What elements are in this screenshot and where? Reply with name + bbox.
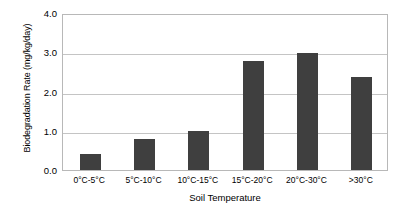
y-axis-tick-label: 3.0 [26, 48, 57, 58]
y-axis-tick-label: 2.0 [26, 88, 57, 98]
x-axis-tick-label: 0°C-5°C [62, 174, 116, 186]
bar [134, 139, 155, 170]
bar [188, 131, 209, 170]
bar-chart: Biodegradation Rate (mg/kg/day) 0.01.02.… [0, 0, 408, 218]
bars-layer [63, 15, 387, 170]
bar [243, 61, 264, 170]
y-axis-tick-label: 4.0 [26, 9, 57, 19]
bar [80, 154, 101, 170]
plot-area [62, 14, 388, 171]
x-axis-tick-labels: 0°C-5°C5°C-10°C10°C-15°C15°C-20°C20°C-30… [62, 174, 388, 188]
x-axis-tick-label: 5°C-10°C [117, 174, 171, 186]
x-axis-tick-label: >30°C [334, 174, 388, 186]
y-axis-tick-label: 1.0 [26, 127, 57, 137]
y-axis-tick-label: 0.0 [26, 166, 57, 176]
bar [351, 77, 372, 170]
x-axis-tick-label: 15°C-20°C [225, 174, 279, 186]
x-axis-tick-label: 10°C-15°C [171, 174, 225, 186]
bar [297, 53, 318, 170]
y-axis-tick-labels: 0.01.02.03.04.0 [26, 0, 57, 218]
x-axis-tick-label: 20°C-30°C [280, 174, 334, 186]
x-axis-title: Soil Temperature [62, 192, 388, 204]
